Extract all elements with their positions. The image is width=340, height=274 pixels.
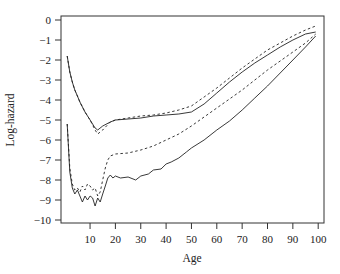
- x-axis: 102030405060708090100: [85, 223, 327, 245]
- x-tick-label: 40: [161, 233, 173, 245]
- y-tick-label: −9: [39, 194, 51, 206]
- x-tick-label: 20: [110, 233, 122, 245]
- x-tick-label: 80: [262, 233, 274, 245]
- log-hazard-chart: 0−1−2−3−4−5−6−7−8−9−10 10203040506070809…: [0, 0, 340, 274]
- y-axis-title: Log-hazard: [4, 93, 17, 146]
- x-tick-label: 100: [310, 233, 327, 245]
- y-tick-label: −3: [39, 74, 51, 86]
- y-tick-label: −5: [39, 114, 51, 126]
- y-tick-label: 0: [46, 14, 52, 26]
- x-tick-label: 10: [85, 233, 97, 245]
- y-tick-label: −8: [39, 174, 51, 186]
- x-tick-label: 70: [237, 233, 249, 245]
- y-tick-label: −1: [39, 34, 51, 46]
- x-tick-label: 50: [186, 233, 198, 245]
- y-tick-label: −7: [39, 154, 51, 166]
- series-upper-dashed: [67, 26, 316, 134]
- x-tick-label: 60: [211, 233, 223, 245]
- y-tick-label: −6: [39, 134, 51, 146]
- series-lower-solid: [67, 36, 316, 206]
- x-tick-label: 30: [135, 233, 147, 245]
- y-tick-label: −10: [34, 214, 52, 226]
- series-layer: [67, 26, 316, 206]
- series-upper-solid: [67, 32, 316, 130]
- series-lower-dashed: [67, 34, 316, 196]
- x-axis-title: Age: [182, 252, 201, 265]
- y-tick-label: −4: [39, 94, 51, 106]
- x-tick-label: 90: [287, 233, 299, 245]
- y-tick-label: −2: [39, 54, 51, 66]
- y-axis: 0−1−2−3−4−5−6−7−8−9−10: [34, 14, 61, 226]
